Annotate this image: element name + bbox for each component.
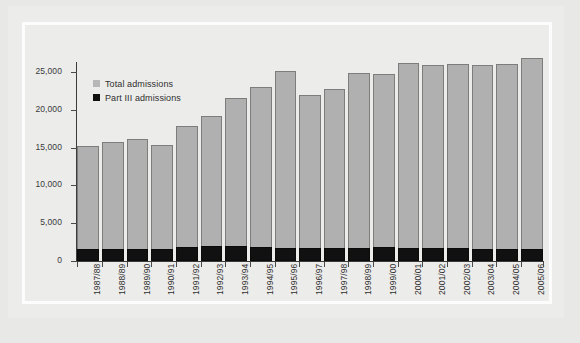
bar-total-admissions [521, 58, 543, 261]
bar-part3-admissions [102, 249, 124, 261]
bar-stack [472, 62, 494, 261]
bar-part3-admissions [127, 249, 149, 261]
bar-total-admissions [201, 116, 223, 261]
x-axis-label: 1995/96 [289, 264, 299, 295]
x-axis-tick [77, 262, 78, 267]
bar-total-admissions [299, 95, 321, 261]
bar-stack [348, 62, 370, 261]
bar-total-admissions [348, 73, 370, 261]
bar-stack [275, 62, 297, 261]
bar-part3-admissions [373, 247, 395, 261]
x-axis-tick [496, 262, 497, 267]
chart-legend: Total admissions Part III admissions [93, 77, 181, 105]
legend-label-part3: Part III admissions [105, 93, 181, 103]
y-axis-label: 10,000 [20, 179, 62, 189]
x-axis-tick [422, 262, 423, 267]
bar-stack [324, 62, 346, 261]
legend-swatch-part3-icon [93, 94, 100, 101]
bar-stack [398, 62, 420, 261]
x-axis-tick [127, 262, 128, 267]
bar-stack [447, 62, 469, 261]
x-axis-label: 1989/90 [142, 264, 152, 295]
bar-stack [299, 62, 321, 261]
x-axis-label: 1988/89 [117, 264, 127, 295]
x-axis-tick [225, 262, 226, 267]
y-axis-tick [71, 223, 77, 224]
bar-total-admissions [102, 142, 124, 261]
x-axis-label: 2005/06 [536, 264, 546, 295]
x-axis-tick [398, 262, 399, 267]
bar-stack [422, 62, 444, 261]
y-axis-label: 25,000 [20, 66, 62, 76]
bar-total-admissions [324, 89, 346, 261]
x-axis-tick [176, 262, 177, 267]
bar-total-admissions [77, 146, 99, 261]
x-axis-tick [324, 262, 325, 267]
bar-part3-admissions [275, 248, 297, 261]
x-axis-label: 1992/93 [215, 264, 225, 295]
x-axis-label: 2001/02 [437, 264, 447, 295]
legend-item-part3: Part III admissions [93, 91, 181, 104]
bar-total-admissions [275, 71, 297, 262]
bar-part3-admissions [521, 249, 543, 261]
x-axis-tick [348, 262, 349, 267]
y-axis-tick [71, 148, 77, 149]
y-axis-tick [71, 72, 77, 73]
bar-total-admissions [176, 126, 198, 261]
x-axis-tick [521, 262, 522, 267]
x-axis-label: 1993/94 [240, 264, 250, 295]
bar-total-admissions [127, 139, 149, 261]
x-axis-label: 1994/95 [265, 264, 275, 295]
bar-part3-admissions [447, 248, 469, 261]
bar-total-admissions [422, 65, 444, 261]
bar-stack [496, 62, 518, 261]
bar-part3-admissions [398, 248, 420, 261]
x-axis-label: 1996/97 [314, 264, 324, 295]
x-axis-label: 1998/99 [363, 264, 373, 295]
x-axis-line [76, 261, 544, 262]
bar-total-admissions [225, 98, 247, 261]
bar-part3-admissions [201, 246, 223, 261]
bar-part3-admissions [422, 248, 444, 261]
bar-stack [250, 62, 272, 261]
x-axis-tick [299, 262, 300, 267]
x-axis-tick [472, 262, 473, 267]
bar-total-admissions [151, 145, 173, 261]
x-axis-label: 2004/05 [511, 264, 521, 295]
x-axis-label: 2003/04 [486, 264, 496, 295]
bar-part3-admissions [496, 249, 518, 261]
legend-swatch-total-icon [93, 80, 100, 87]
y-axis-label: 5,000 [20, 217, 62, 227]
y-axis-tick [71, 185, 77, 186]
bar-total-admissions [472, 65, 494, 261]
bar-part3-admissions [324, 248, 346, 261]
bar-part3-admissions [151, 249, 173, 261]
bar-part3-admissions [77, 249, 99, 261]
bar-part3-admissions [472, 249, 494, 261]
x-axis-tick [250, 262, 251, 267]
bar-total-admissions [373, 74, 395, 261]
x-axis-tick [151, 262, 152, 267]
bar-stack [225, 62, 247, 261]
x-axis-tick [543, 262, 544, 267]
bar-part3-admissions [348, 248, 370, 261]
bar-total-admissions [398, 63, 420, 261]
x-axis-label: 1997/98 [339, 264, 349, 295]
x-axis-tick [201, 262, 202, 267]
bar-stack [201, 62, 223, 261]
chart-figure: 05,00010,00015,00020,00025,0001987/88198… [0, 0, 580, 343]
legend-item-total: Total admissions [93, 77, 181, 90]
x-axis-tick [102, 262, 103, 267]
y-axis-label: 0 [20, 255, 62, 265]
bar-part3-admissions [225, 246, 247, 261]
y-axis-label: 15,000 [20, 142, 62, 152]
x-axis-tick [275, 262, 276, 267]
y-axis-tick [71, 110, 77, 111]
bar-total-admissions [496, 64, 518, 261]
bar-stack [521, 62, 543, 261]
bar-part3-admissions [299, 248, 321, 261]
legend-label-total: Total admissions [105, 79, 173, 89]
bar-total-admissions [250, 87, 272, 261]
x-axis-label: 1999/00 [388, 264, 398, 295]
x-axis-label: 1990/91 [166, 264, 176, 295]
